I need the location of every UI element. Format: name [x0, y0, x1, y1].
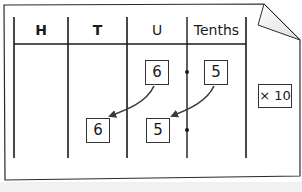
column-header-tenths: Tenths [187, 17, 246, 44]
multiply-by-ten-label: × 10 [258, 84, 292, 108]
place-value-diagram: H T U Tenths 6 5 6 5 × 10 [0, 0, 302, 192]
column-header-units: U [127, 17, 187, 44]
column-header-hundreds: H [14, 17, 68, 44]
digit-box-tenths-before: 5 [204, 60, 228, 85]
digit-box-units-before: 6 [145, 60, 169, 85]
digit-box-units-after: 5 [146, 118, 170, 143]
digit-box-tens-after: 6 [86, 118, 110, 143]
column-header-tens: T [68, 17, 127, 44]
